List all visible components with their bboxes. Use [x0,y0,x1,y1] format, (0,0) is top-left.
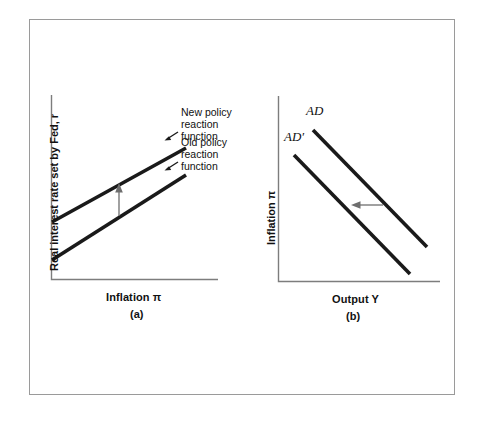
ad-prime-curve [294,155,410,274]
new-policy-annotation-line-2: reaction [181,118,232,130]
old-policy-annotation-line-3: function [181,160,227,172]
panel-a-caption: (a) [130,308,143,320]
ad-curve [313,130,427,247]
ad-prime-curve-label: AD′ [284,129,304,145]
panel-b-y-axis-title: Inflation π [265,191,277,245]
panel-a-x-axis-title: Inflation π [106,291,161,303]
old-policy-annotation-line-2: reaction [181,148,227,160]
new-policy-pointer [165,132,179,141]
old-policy-annotation-line-1: Old policy [181,136,227,148]
panel-a-graphics [29,19,259,395]
panel-b-caption: (b) [346,310,360,322]
new-policy-annotation-line-1: New policy [181,106,232,118]
figure-root: Real interest rate set by Fed, r Inflati… [0,0,480,423]
panel-b: Inflation π Output Y (b) AD AD′ [240,19,455,395]
old-policy-pointer [165,162,179,171]
old-policy-annotation: Old policy reaction function [181,136,227,173]
panel-b-axes [279,96,441,282]
panel-a: Real interest rate set by Fed, r Inflati… [29,19,259,395]
panel-b-x-axis-title: Output Y [332,293,379,305]
leftward-shift-arrow [351,201,383,209]
ad-curve-label: AD [306,103,323,119]
panel-a-y-axis-title: Real interest rate set by Fed, r [48,114,60,271]
